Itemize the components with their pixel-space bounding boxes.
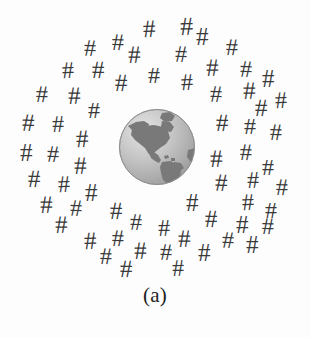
hash-symbol: # <box>68 83 81 108</box>
hash-symbol: # <box>130 210 143 234</box>
hash-symbol: # <box>196 24 209 49</box>
hash-symbol: # <box>134 238 147 263</box>
hash-symbol: # <box>112 30 124 54</box>
hash-symbol: # <box>58 172 71 196</box>
hash-symbol: # <box>175 42 188 66</box>
hash-symbol: # <box>76 126 89 151</box>
figure-container: ########################################… <box>0 0 310 338</box>
hash-symbol: # <box>148 63 160 87</box>
hash-symbol: # <box>85 180 98 205</box>
hash-symbol: # <box>210 82 223 106</box>
hash-symbol: # <box>120 256 133 281</box>
hash-symbol: # <box>100 244 112 268</box>
hash-symbol: # <box>216 110 229 135</box>
hash-symbol: # <box>20 140 33 165</box>
hash-symbol: # <box>181 70 194 94</box>
hash-symbol: # <box>246 232 259 257</box>
hash-symbol: # <box>205 206 218 231</box>
hash-symbol: # <box>226 35 238 59</box>
hash-symbol: # <box>22 110 35 135</box>
hash-symbol: # <box>255 95 268 120</box>
hash-symbol: # <box>262 155 274 179</box>
hash-symbol: # <box>36 82 48 106</box>
hash-symbol: # <box>62 58 75 82</box>
hash-symbol: # <box>206 55 219 80</box>
hash-symbol: # <box>215 170 228 195</box>
hash-symbol: # <box>270 120 282 144</box>
hash-symbol: # <box>92 57 105 82</box>
hash-symbol: # <box>160 240 173 264</box>
hash-symbol: # <box>222 228 235 252</box>
hash-symbol: # <box>115 70 128 95</box>
hash-symbol: # <box>47 142 60 166</box>
hash-symbol: # <box>143 16 156 41</box>
hash-symbol: # <box>40 192 53 217</box>
hash-symbol: # <box>178 226 191 251</box>
hash-symbol: # <box>243 78 256 103</box>
globe-illustration <box>118 108 196 186</box>
hash-symbol: # <box>84 228 97 253</box>
hash-symbol: # <box>172 256 184 280</box>
hash-symbol: # <box>128 42 141 67</box>
hash-symbol: # <box>210 146 223 171</box>
hash-symbol: # <box>112 226 124 250</box>
hash-symbol: # <box>276 175 288 199</box>
hash-symbol: # <box>180 14 193 40</box>
hash-symbol: # <box>70 196 83 220</box>
hash-symbol: # <box>186 190 199 215</box>
hash-symbol: # <box>198 240 211 265</box>
hash-symbol: # <box>52 112 64 136</box>
hash-symbol: # <box>262 214 274 238</box>
hash-symbol: # <box>88 98 100 122</box>
hash-symbol: # <box>240 140 252 164</box>
hash-symbol: # <box>55 212 68 237</box>
hash-symbol: # <box>158 216 170 240</box>
hash-symbol: # <box>110 198 123 223</box>
figure-caption: (a) <box>0 283 310 308</box>
hash-symbol: # <box>74 153 87 178</box>
hash-symbol: # <box>244 114 256 138</box>
hash-symbol: # <box>28 166 41 191</box>
hash-symbol: # <box>275 88 288 112</box>
hash-symbol: # <box>262 66 275 91</box>
